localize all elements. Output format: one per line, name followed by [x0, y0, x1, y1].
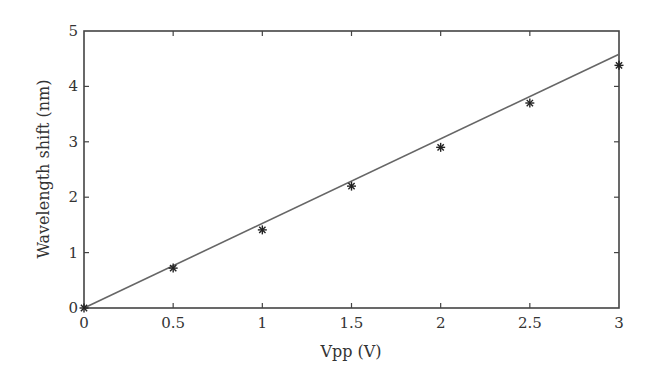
- asterisk-marker: [80, 304, 89, 313]
- plot-frame: [84, 31, 619, 308]
- asterisk-marker: [347, 182, 356, 191]
- x-tick-label: 0.5: [161, 314, 185, 332]
- y-tick-label: 1: [68, 244, 78, 262]
- y-tick-label: 2: [68, 188, 78, 206]
- x-tick-label: 1.5: [340, 314, 364, 332]
- y-axis-label: Wavelength shift (nm): [34, 79, 53, 258]
- y-tick-label: 3: [68, 133, 78, 151]
- fit-line: [84, 54, 619, 308]
- y-axis-ticks: 012345: [68, 22, 619, 317]
- x-tick-label: 0: [79, 314, 89, 332]
- y-tick-label: 5: [68, 22, 78, 40]
- asterisk-marker: [169, 264, 178, 273]
- data-markers: [80, 61, 624, 313]
- x-tick-label: 2: [436, 314, 446, 332]
- y-tick-label: 0: [68, 299, 78, 317]
- asterisk-marker: [615, 61, 624, 70]
- x-tick-label: 1: [258, 314, 268, 332]
- asterisk-marker: [436, 143, 445, 152]
- x-tick-label: 2.5: [518, 314, 542, 332]
- asterisk-marker: [258, 225, 267, 234]
- y-tick-label: 4: [68, 77, 78, 95]
- asterisk-marker: [525, 99, 534, 108]
- x-axis-label: Vpp (V): [319, 342, 381, 361]
- x-tick-label: 3: [614, 314, 624, 332]
- chart: 00.511.522.53 012345 Vpp (V) Wavelength …: [0, 0, 651, 385]
